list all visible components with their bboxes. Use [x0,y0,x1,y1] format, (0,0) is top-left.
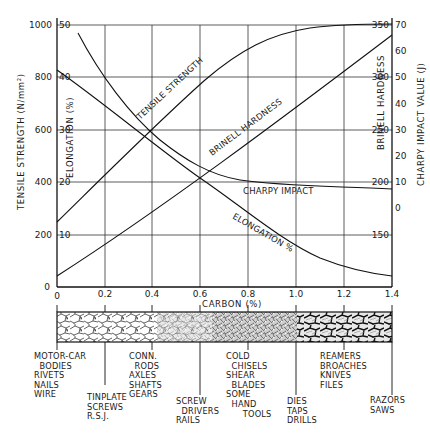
xtick-0.4: 0.4 [145,289,160,299]
tick-0: 0 [395,203,401,213]
tick-50: 50 [59,20,71,30]
application-group-4: COLD CHISELS SHEAR BLADES SOME HAND TOOL… [226,352,271,419]
brinell-hardness-curve [57,35,392,276]
xtick-1.2: 1.2 [337,289,351,299]
application-group-5: DIES TAPS DRILLS [287,397,317,426]
tick-1000: 1000 [29,20,52,30]
tensile-strength-curve [57,24,392,222]
brinell-axis-label: BRINELL HARDNESS [376,55,386,150]
tick-40: 40 [59,72,71,82]
tick-0: 0 [44,282,50,292]
tick-10: 10 [59,230,71,240]
tick-20: 20 [395,151,407,161]
xtick-1.4: 1.4 [385,289,400,299]
application-group-6: REAMERS BROACHES KNIVES FILES [320,352,367,390]
tick-150: 150 [372,230,389,240]
x-axis-label: CARBON (%) [202,299,262,309]
charpy-curve-label: CHARPY IMPACT [243,186,314,196]
charpy-impact-curve [78,33,392,189]
xtick-0.6: 0.6 [193,289,208,299]
tick-800: 800 [35,72,52,82]
tick-30: 30 [395,125,407,135]
application-group-0: MOTOR-CAR BODIES RIVETS NAILS WIRE [34,352,86,400]
xtick-0: 0 [54,291,60,301]
tick-600: 600 [35,125,52,135]
tick-200: 200 [35,230,52,240]
tick-50: 50 [395,72,407,82]
application-group-2: CONN. RODS AXLES SHAFTS GEARS [129,352,162,400]
tick-40: 40 [395,99,407,109]
elongation-curve-label: ELONGATION % [231,211,295,254]
tick-400: 400 [35,177,52,187]
xtick-0.2: 0.2 [98,289,112,299]
application-group-7: RAZORS SAWS [370,396,405,415]
tick-60: 60 [395,46,407,56]
xtick-1.0: 1.0 [289,289,304,299]
xtick-0.8: 0.8 [241,289,256,299]
application-group-1: TINPLATE SCREWS R.S.J. [87,393,127,422]
tick-10: 10 [395,177,407,187]
tick-350: 350 [372,20,389,30]
application-group-3: SCREW DRIVERS RAILS [176,397,219,426]
tick-200: 200 [372,177,389,187]
axes [57,18,392,287]
charpy-axis-label: CHARPY IMPACT VALUE (J) [416,63,426,186]
brinell-curve-label: BRINELL HARDNESS [207,96,284,157]
elongation-axis-label: ELONGATION (%) [65,97,75,178]
tensile-curve-label: TENSILE STRENGTH [134,55,205,122]
tick-70: 70 [395,20,407,30]
tensile-axis-label: TENSILE STRENGTH (N/mm²) [16,73,26,211]
